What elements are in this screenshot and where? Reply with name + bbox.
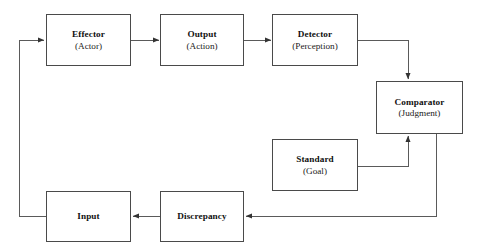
node-output-subtitle: (Action): [186, 41, 217, 51]
node-input[interactable]: Input: [46, 191, 131, 242]
node-discrepancy-title: Discrepancy: [177, 211, 226, 221]
node-detector-subtitle: (Perception): [292, 41, 337, 51]
node-comparator-title: Comparator: [395, 97, 445, 107]
node-detector-title: Detector: [298, 29, 332, 39]
node-standard-subtitle: (Goal): [303, 166, 327, 176]
edge-detector-to-comparator: [358, 40, 408, 79]
node-output[interactable]: Output (Action): [160, 14, 244, 66]
node-detector[interactable]: Detector (Perception): [272, 14, 358, 66]
node-effector[interactable]: Effector (Actor): [46, 14, 131, 66]
node-discrepancy[interactable]: Discrepancy: [160, 191, 244, 242]
edge-input-to-effector: [19, 40, 46, 216]
node-input-title: Input: [77, 211, 99, 221]
node-comparator-subtitle: (Judgment): [399, 108, 441, 118]
node-comparator[interactable]: Comparator (Judgment): [376, 81, 463, 134]
edge-standard-to-comparator: [358, 136, 408, 166]
feedback-loop-diagram: Effector (Actor) Output (Action) Detecto…: [0, 0, 478, 252]
node-standard[interactable]: Standard (Goal): [272, 139, 358, 191]
node-effector-title: Effector: [72, 29, 105, 39]
node-effector-subtitle: (Actor): [75, 41, 102, 51]
node-output-title: Output: [187, 29, 216, 39]
node-standard-title: Standard: [296, 154, 334, 164]
